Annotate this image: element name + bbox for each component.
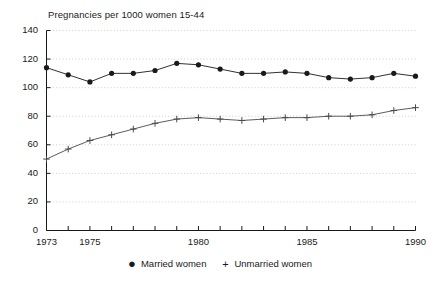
y-tick-label: 100 [12,81,38,92]
legend-label: Unmarried women [234,258,312,269]
data-point-marker [152,68,157,73]
y-tick-label: 120 [12,53,38,64]
data-point-marker [152,120,159,127]
data-point-marker [348,76,353,81]
x-tick-label: 1980 [178,236,218,247]
x-tick-label: 1985 [287,236,327,247]
y-tick-label: 0 [12,224,38,235]
data-point-marker [412,104,419,111]
data-point-marker [239,117,246,124]
data-point-marker [109,71,114,76]
data-point-marker [239,71,244,76]
data-point-marker [326,75,331,80]
x-tick-label: 1975 [70,236,110,247]
legend-dot-icon: ● [127,259,137,269]
y-tick-label: 140 [12,24,38,35]
data-point-marker [390,107,397,114]
chart-legend: ●Married women+Unmarried women [0,258,439,269]
data-point-marker [282,114,289,121]
data-point-marker [325,113,332,120]
legend-entry: +Unmarried women [220,258,312,269]
data-point-marker [108,131,115,138]
data-point-marker [217,116,224,123]
series-line [47,108,416,159]
y-tick-label: 40 [12,167,38,178]
data-point-marker [174,61,179,66]
data-point-marker [66,72,71,77]
data-point-marker [131,71,136,76]
data-point-marker [369,75,374,80]
data-point-marker [173,116,180,123]
data-point-marker [260,116,267,123]
y-tick-label: 20 [12,195,38,206]
data-point-marker [347,113,354,120]
data-point-marker [304,114,311,121]
data-point-marker [195,114,202,121]
data-point-marker [283,69,288,74]
x-tick-label: 1990 [396,236,436,247]
data-point-marker [304,71,309,76]
data-point-marker [391,71,396,76]
data-point-marker [369,111,376,118]
data-point-marker [65,146,72,153]
data-point-marker [130,126,137,133]
data-point-marker [44,65,49,70]
y-tick-label: 60 [12,138,38,149]
data-point-marker [87,137,94,144]
data-point-marker [413,74,418,79]
data-point-marker [87,79,92,84]
legend-entry: ●Married women [127,258,206,269]
y-tick-label: 80 [12,110,38,121]
series-line [47,63,416,82]
data-point-marker [196,62,201,67]
legend-plus-icon: + [220,259,230,269]
data-point-marker [261,71,266,76]
chart-figure: Pregnancies per 1000 women 15-44 ●Marrie… [0,0,439,285]
data-point-marker [43,156,50,163]
legend-label: Married women [141,258,206,269]
x-tick-label: 1973 [27,236,67,247]
data-point-marker [218,66,223,71]
